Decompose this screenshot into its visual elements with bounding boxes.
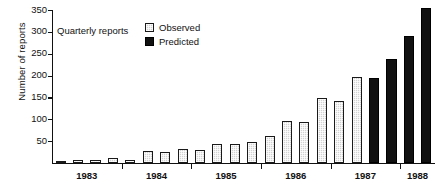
y-axis-tick-label: 350	[31, 4, 47, 15]
legend-swatch-predicted-icon	[145, 37, 154, 46]
bar	[143, 151, 153, 163]
legend-item-observed: Observed	[145, 22, 200, 33]
y-axis-tick-label: 50	[36, 135, 47, 146]
x-axis-tick-label: 1983	[76, 170, 97, 181]
bar	[299, 122, 309, 163]
legend-label-predicted: Predicted	[159, 36, 199, 47]
x-axis-tick-label: 1984	[146, 170, 167, 181]
x-axis-separator	[400, 163, 401, 169]
legend-title: Quarterly reports	[57, 25, 128, 36]
bar	[56, 161, 66, 163]
bar	[421, 8, 431, 163]
y-axis-tick-label: 200	[31, 69, 47, 80]
bar	[230, 144, 240, 163]
bar	[212, 144, 222, 163]
bar	[282, 121, 292, 163]
bar	[317, 98, 327, 163]
y-axis-label: Number of reports	[16, 0, 27, 132]
x-axis-separator	[191, 163, 192, 169]
x-axis-separator	[261, 163, 262, 169]
bar	[386, 59, 396, 163]
x-axis-separator	[122, 163, 123, 169]
x-axis-tick-label: 1986	[285, 170, 306, 181]
x-axis-tick-label: 1988	[407, 170, 428, 181]
bar	[108, 158, 118, 163]
bar	[125, 160, 135, 163]
legend-label-observed: Observed	[159, 22, 200, 33]
y-axis-tick-label: 100	[31, 113, 47, 124]
x-axis-line	[52, 163, 435, 164]
y-axis-tick-label: 250	[31, 47, 47, 58]
bar	[352, 77, 362, 163]
y-axis-tick-label: 150	[31, 91, 47, 102]
bar	[73, 160, 83, 163]
bar	[265, 136, 275, 163]
legend-item-predicted: Predicted	[145, 36, 199, 47]
bar	[195, 150, 205, 163]
legend-swatch-observed-icon	[145, 23, 154, 32]
x-axis-separator	[331, 163, 332, 169]
bar	[404, 36, 414, 163]
bar	[247, 142, 257, 163]
x-axis-tick-label: 1985	[216, 170, 237, 181]
bar	[178, 149, 188, 163]
bar	[90, 160, 100, 163]
x-axis-tick-label: 1987	[355, 170, 376, 181]
y-axis-tick-label: 300	[31, 25, 47, 36]
bar	[369, 78, 379, 163]
bar-chart-figure: Number of reports 50100150200250300350 1…	[0, 0, 439, 188]
bar	[334, 101, 344, 163]
bar	[160, 152, 170, 163]
